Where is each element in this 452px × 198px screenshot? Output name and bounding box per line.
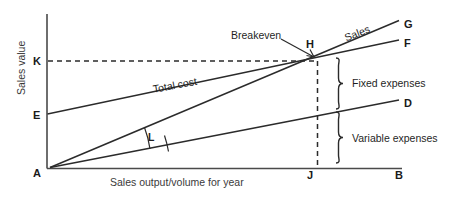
point-label-f: F	[404, 38, 411, 49]
point-label-d: D	[404, 98, 412, 109]
point-label-e: E	[33, 110, 40, 121]
point-label-j: J	[307, 170, 313, 181]
fixed-expenses-label: Fixed expenses	[352, 78, 426, 89]
y-axis-title: Sales value	[16, 41, 27, 95]
point-label-a: A	[33, 168, 41, 179]
variable-expenses-brace	[336, 112, 343, 163]
point-label-k: K	[33, 56, 41, 67]
angle-arc-inner	[165, 136, 169, 152]
point-label-h: H	[306, 39, 314, 50]
point-label-b: B	[395, 170, 403, 181]
variable-expenses-label: Variable expenses	[352, 133, 438, 144]
fixed-expenses-brace	[336, 58, 343, 109]
breakeven-annotation-label: Breakeven	[231, 30, 281, 41]
point-label-g: G	[404, 19, 413, 30]
breakeven-chart: Sales value Sales output/volume for year…	[0, 0, 452, 198]
variable-cost-line	[50, 100, 399, 168]
chart-drawing-area	[0, 0, 452, 198]
x-axis-title: Sales output/volume for year	[110, 177, 244, 188]
angle-label-l: L	[148, 132, 154, 143]
total-cost-line	[48, 40, 400, 114]
